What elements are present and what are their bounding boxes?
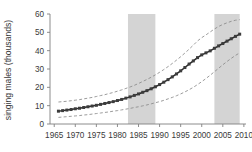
data-point-marker (129, 95, 132, 98)
x-tick-label: 1985 (129, 131, 148, 140)
data-point-marker (103, 102, 106, 105)
y-tick-label: 0 (39, 120, 44, 129)
data-point-marker (192, 59, 195, 62)
y-tick-label: 50 (35, 28, 45, 37)
y-tick-label: 30 (35, 65, 45, 74)
data-point-marker (86, 105, 89, 108)
x-tick-label: 1990 (150, 131, 169, 140)
data-point-marker (145, 89, 148, 92)
x-tick-label: 1995 (172, 131, 191, 140)
data-point-marker (82, 106, 85, 109)
data-point-marker (167, 78, 170, 81)
y-tick-label: 20 (35, 83, 45, 92)
data-point-marker (91, 105, 94, 108)
data-point-marker (133, 94, 136, 97)
data-point-marker (120, 98, 123, 101)
data-point-marker (162, 81, 165, 84)
shaded-band-1 (128, 14, 155, 124)
data-point-marker (221, 42, 224, 45)
x-tick-label: 2005 (214, 131, 233, 140)
data-point-marker (70, 108, 73, 111)
data-point-marker (196, 56, 199, 59)
data-point-marker (65, 109, 68, 112)
data-point-marker (179, 69, 182, 72)
x-tick-label: 2010 (235, 131, 252, 140)
x-tick-label: 2000 (193, 131, 212, 140)
data-point-marker (175, 72, 178, 75)
data-point-marker (61, 109, 64, 112)
x-tick-labels-group: 1965197019751980198519901995200020052010 (45, 131, 252, 140)
data-point-marker (124, 97, 127, 100)
y-tick-label: 10 (35, 102, 45, 111)
data-point-marker (74, 107, 77, 110)
y-axis-title: singing males (thousands) (3, 20, 13, 120)
y-tick-label: 40 (35, 47, 45, 56)
data-point-marker (112, 100, 115, 103)
chart-svg: 0102030405060 19651970197519801985199019… (0, 0, 252, 152)
x-tick-label: 1970 (66, 131, 85, 140)
y-tick-label: 60 (35, 10, 45, 19)
data-point-marker (188, 63, 191, 66)
data-point-marker (213, 47, 216, 50)
x-tick-label: 1965 (45, 131, 64, 140)
chart-container: 0102030405060 19651970197519801985199019… (0, 0, 252, 152)
data-point-marker (154, 85, 157, 88)
data-point-marker (57, 110, 60, 113)
data-point-marker (116, 99, 119, 102)
data-point-marker (95, 104, 98, 107)
data-point-marker (183, 66, 186, 69)
data-point-marker (204, 51, 207, 54)
data-point-marker (99, 103, 102, 106)
data-point-marker (137, 92, 140, 95)
y-tick-labels-group: 0102030405060 (35, 10, 45, 129)
data-point-marker (217, 44, 220, 47)
data-point-marker (108, 101, 111, 104)
data-point-marker (141, 91, 144, 94)
x-tick-label: 1975 (87, 131, 106, 140)
data-point-marker (209, 49, 212, 52)
data-point-marker (226, 40, 229, 43)
data-point-marker (158, 83, 161, 86)
data-point-marker (150, 87, 153, 90)
data-point-marker (230, 37, 233, 40)
shaded-band-2 (214, 14, 239, 124)
x-tick-label: 1980 (108, 131, 127, 140)
data-point-marker (238, 33, 241, 36)
data-point-marker (234, 35, 237, 38)
data-point-marker (200, 53, 203, 56)
data-point-marker (78, 107, 81, 110)
data-point-marker (171, 75, 174, 78)
